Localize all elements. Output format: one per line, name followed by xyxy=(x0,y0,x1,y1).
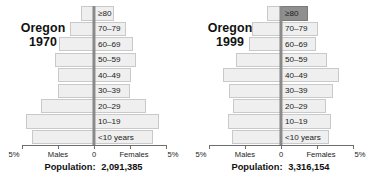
center-axis-spine xyxy=(92,6,95,145)
axis-label-left-pct: 5% xyxy=(9,150,20,159)
bar-male xyxy=(232,130,281,144)
axis-label-right-pct: 5% xyxy=(168,150,179,159)
axis-tick xyxy=(317,145,318,149)
bar-female xyxy=(94,130,153,144)
axis-label-males: Males xyxy=(235,150,255,159)
pyramid-panel-1999: Oregon 1999 xyxy=(187,0,374,177)
bar-female xyxy=(281,22,318,36)
axis-label-zero: 0 xyxy=(279,150,283,159)
axis-tick xyxy=(281,145,282,149)
bar-female xyxy=(94,53,136,67)
bar-female xyxy=(94,84,130,98)
axis-label-females: Females xyxy=(119,150,148,159)
bar-male xyxy=(55,53,94,67)
axis-label-males: Males xyxy=(48,150,68,159)
axis-tick xyxy=(22,145,23,149)
axis-tick xyxy=(166,145,167,149)
x-axis-labels-1999: 5% Males 0 Females 5% xyxy=(187,150,374,162)
bar-female xyxy=(94,37,133,51)
bar-male xyxy=(58,84,94,98)
bar-female xyxy=(94,114,159,128)
population-pyramid-figure: Oregon 1970 xyxy=(0,0,374,177)
axis-label-right-pct: 5% xyxy=(355,150,366,159)
bar-female xyxy=(281,53,327,67)
bar-female xyxy=(94,99,146,113)
bar-female xyxy=(281,99,326,113)
bar-male xyxy=(41,99,94,113)
population-total-1999: Population: 3,316,154 xyxy=(187,162,374,172)
axis-tick xyxy=(209,145,210,149)
bar-female xyxy=(94,6,114,20)
bar-male xyxy=(228,114,281,128)
population-value: 2,091,385 xyxy=(101,162,142,172)
bar-male xyxy=(32,130,94,144)
bar-male xyxy=(236,53,281,67)
population-label: Population: xyxy=(231,162,282,172)
pyramid-panel-1970: Oregon 1970 xyxy=(0,0,187,177)
axis-tick xyxy=(245,145,246,149)
x-axis-labels-1970: 5% Males 0 Females 5% xyxy=(0,150,187,162)
plot-area-1970: ≥80 70–79 60–69 50–59 40–49 30–39 20–29 … xyxy=(22,6,166,145)
bar-male xyxy=(59,37,94,51)
bar-female xyxy=(281,68,339,82)
bar-female xyxy=(281,130,329,144)
bar-female xyxy=(281,6,308,20)
plot-area-1999: ≥80 70–79 60–69 50–59 40–49 30–39 20–29 … xyxy=(209,6,353,145)
population-total-1970: Population: 2,091,385 xyxy=(0,162,187,172)
bar-male xyxy=(58,68,94,82)
bar-female xyxy=(281,37,316,51)
bar-female xyxy=(94,68,131,82)
bar-female xyxy=(281,114,331,128)
bar-male xyxy=(26,114,94,128)
bar-male xyxy=(223,68,281,82)
axis-tick xyxy=(94,145,95,149)
bar-female xyxy=(94,22,126,36)
axis-tick xyxy=(58,145,59,149)
bar-male xyxy=(229,84,281,98)
bar-male xyxy=(252,22,281,36)
bar-male xyxy=(233,99,281,113)
bar-male xyxy=(249,37,281,51)
axis-tick xyxy=(130,145,131,149)
center-axis-spine xyxy=(279,6,282,145)
bar-male xyxy=(70,22,94,36)
bar-female xyxy=(281,84,333,98)
axis-tick xyxy=(353,145,354,149)
population-value: 3,316,154 xyxy=(288,162,329,172)
axis-label-left-pct: 5% xyxy=(196,150,207,159)
axis-label-females: Females xyxy=(306,150,335,159)
axis-label-zero: 0 xyxy=(92,150,96,159)
population-label: Population: xyxy=(44,162,95,172)
